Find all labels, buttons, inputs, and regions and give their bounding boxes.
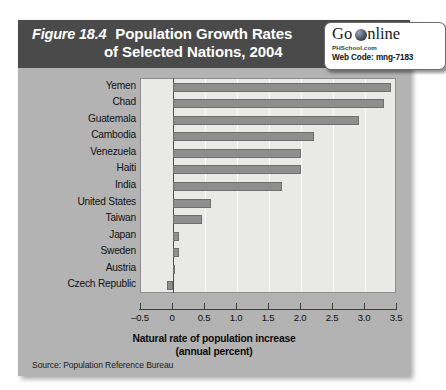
y-axis-labels: YemenChadGuatemalaCambodiaVenezuelaHaiti… — [32, 78, 136, 293]
web-code-label: Web Code: mng-7183 — [332, 53, 445, 62]
x-axis-tick — [300, 303, 301, 310]
x-axis-tick — [332, 303, 333, 310]
x-axis-tick — [236, 303, 237, 310]
figure-panel: Figure 18.4 Population Growth Rates of S… — [18, 20, 410, 376]
y-axis-label: Chad — [32, 96, 136, 107]
figure-title-part-1: Population Growth Rates — [115, 25, 292, 42]
globe-icon — [355, 29, 367, 41]
bar — [167, 281, 173, 290]
x-axis-title: Natural rate of population increase (ann… — [18, 333, 410, 358]
x-axis-tick-label: 3.5 — [376, 312, 416, 323]
go-online-nline-text: nline — [367, 25, 400, 42]
y-axis-label: Guatemala — [32, 113, 136, 124]
bar — [173, 165, 301, 174]
go-online-brand: Go nline — [332, 25, 445, 42]
y-axis-label: Austria — [32, 262, 136, 273]
bar — [173, 232, 179, 241]
x-axis-tick — [140, 303, 141, 310]
x-axis-title-line-2: (annual percent) — [18, 346, 410, 359]
y-axis-label: India — [32, 179, 136, 190]
bar — [173, 132, 314, 141]
x-axis-title-line-1: Natural rate of population increase — [18, 333, 410, 346]
bar — [173, 116, 359, 125]
x-axis-tick — [364, 303, 365, 310]
chart-bars — [141, 79, 395, 292]
bar — [173, 265, 175, 274]
y-axis-label: Japan — [32, 229, 136, 240]
figure-number: Figure 18.4 — [32, 26, 106, 42]
y-axis-label: Sweden — [32, 245, 136, 256]
bar — [173, 83, 391, 92]
chart-plot-area — [140, 78, 396, 293]
x-axis-tick — [172, 303, 173, 310]
phschool-site-label: PHSchool.com — [332, 44, 445, 51]
go-online-badge[interactable]: Go nline PHSchool.com Web Code: mng-7183 — [324, 22, 446, 70]
figure-title-part-2: of Selected Nations, 2004 — [104, 43, 282, 60]
y-axis-label: Haiti — [32, 162, 136, 173]
y-axis-label: Cambodia — [32, 129, 136, 140]
y-axis-label: Yemen — [32, 80, 136, 91]
x-axis-tick — [396, 303, 397, 310]
y-axis-label: Venezuela — [32, 146, 136, 157]
x-axis-tick — [204, 303, 205, 310]
bar — [173, 248, 179, 257]
y-axis-label: United States — [32, 196, 136, 207]
y-axis-label: Taiwan — [32, 212, 136, 223]
source-note: Source: Population Reference Bureau — [32, 360, 173, 370]
bar — [173, 215, 202, 224]
y-axis-label: Czech Republic — [32, 278, 136, 289]
x-axis-tick — [268, 303, 269, 310]
bar — [173, 99, 384, 108]
go-online-go-text: Go — [332, 25, 352, 42]
bar — [173, 149, 301, 158]
bar — [173, 199, 211, 208]
bar — [173, 182, 282, 191]
